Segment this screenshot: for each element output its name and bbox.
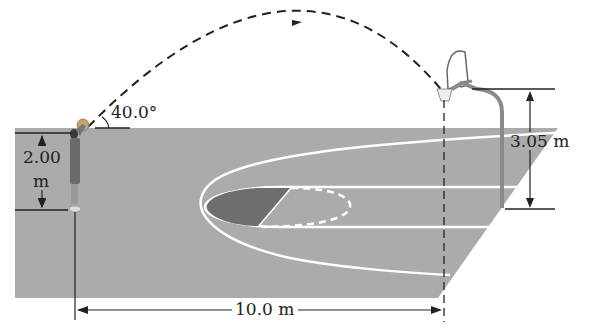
release-height-unit: m bbox=[33, 173, 49, 190]
horizontal-distance-label: 10.0 m bbox=[235, 301, 294, 318]
projectile-basketball-diagram: 40.0° 2.00 m 3.05 m 10.0 m bbox=[0, 0, 595, 334]
rim-height-label: 3.05 m bbox=[510, 133, 569, 150]
launch-angle-label: 40.0° bbox=[111, 104, 157, 121]
court-floor bbox=[15, 128, 570, 298]
release-height-value: 2.00 bbox=[23, 149, 61, 166]
